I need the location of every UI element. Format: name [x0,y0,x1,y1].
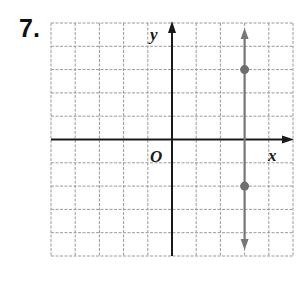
plotted-point [240,65,249,74]
line-arrow-down-icon [241,239,249,250]
line-arrow-up-icon [241,28,249,39]
x-axis-label: x [267,146,277,165]
x-axis-arrow-icon [282,136,294,144]
origin-label: O [150,147,162,166]
coordinate-graph: y x O [0,0,306,282]
y-axis-label: y [148,25,158,44]
plotted-point [240,182,249,191]
axes [51,21,294,256]
